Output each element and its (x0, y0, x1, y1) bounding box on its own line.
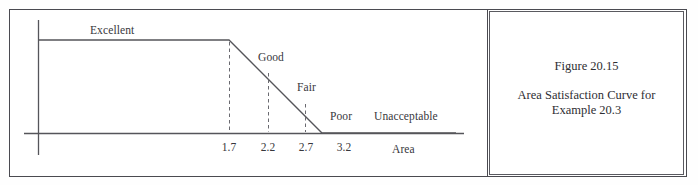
region-label-fair: Fair (297, 82, 316, 94)
figure-caption: Area Satisfaction Curve for Example 20.3 (518, 88, 656, 118)
region-label-unacceptable: Unacceptable (374, 111, 438, 123)
region-label-poor: Poor (330, 111, 352, 123)
x-axis-title: Area (392, 144, 415, 156)
region-label-excellent: Excellent (90, 25, 134, 37)
region-label-good: Good (258, 52, 284, 64)
x-tick-label-1: 1.7 (209, 142, 249, 154)
figure-container: Excellent Good Fair Poor Unacceptable 1.… (0, 0, 698, 185)
x-tick-label-4: 3.2 (324, 142, 364, 154)
figure-caption-line-2: Example 20.3 (518, 103, 656, 118)
x-tick-label-3: 2.7 (286, 142, 326, 154)
figure-number: Figure 20.15 (555, 60, 619, 73)
chart-panel: Excellent Good Fair Poor Unacceptable 1.… (9, 9, 487, 177)
figure-caption-line-1: Area Satisfaction Curve for (518, 88, 656, 103)
caption-panel: Figure 20.15 Area Satisfaction Curve for… (489, 11, 684, 175)
x-tick-label-2: 2.2 (248, 142, 288, 154)
